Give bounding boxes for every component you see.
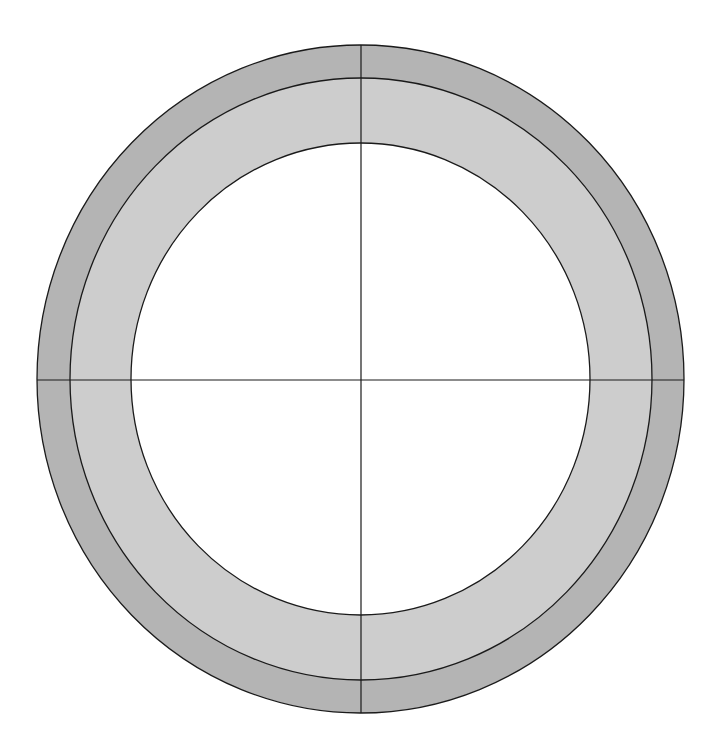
concentric-rings-diagram	[0, 0, 719, 756]
